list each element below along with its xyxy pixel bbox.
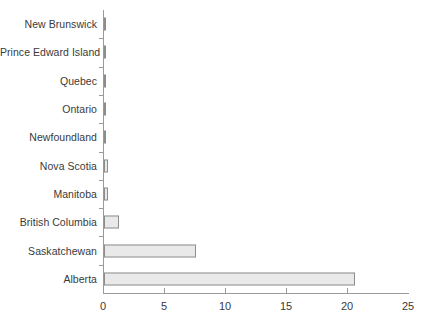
bar bbox=[104, 74, 106, 87]
x-axis-tick bbox=[225, 288, 226, 293]
x-axis-tick-label: 25 bbox=[402, 300, 414, 313]
chart-row: Alberta bbox=[0, 265, 434, 293]
x-axis-tick bbox=[347, 288, 348, 293]
chart-row: Ontario bbox=[0, 95, 434, 123]
bar-track bbox=[104, 159, 108, 172]
y-axis-tick bbox=[99, 38, 104, 39]
y-axis-tick bbox=[99, 95, 104, 96]
chart-row: British Columbia bbox=[0, 208, 434, 236]
y-axis-tick bbox=[99, 67, 104, 68]
chart-rows: New BrunswickPrince Edward IslandQuebecO… bbox=[0, 10, 434, 293]
chart-row: Nova Scotia bbox=[0, 152, 434, 180]
y-axis-tick bbox=[99, 236, 104, 237]
category-label: Newfoundland bbox=[0, 131, 97, 143]
chart-row: Quebec bbox=[0, 67, 434, 95]
bar-chart: New BrunswickPrince Edward IslandQuebecO… bbox=[0, 0, 434, 333]
bar bbox=[104, 187, 108, 200]
bar-track bbox=[104, 74, 106, 87]
bar-track bbox=[104, 131, 106, 144]
bar-track bbox=[104, 272, 355, 285]
category-label: British Columbia bbox=[0, 216, 97, 228]
category-label: Alberta bbox=[0, 273, 97, 285]
bar-track bbox=[104, 187, 108, 200]
bar-track bbox=[104, 216, 119, 229]
bar bbox=[104, 131, 106, 144]
category-label: Quebec bbox=[0, 75, 97, 87]
chart-row: Newfoundland bbox=[0, 123, 434, 151]
chart-row: Manitoba bbox=[0, 180, 434, 208]
x-axis-tick-label: 10 bbox=[219, 300, 231, 313]
bar-track bbox=[104, 103, 106, 116]
y-axis-tick bbox=[99, 208, 104, 209]
y-axis-tick bbox=[99, 152, 104, 153]
bar bbox=[104, 18, 106, 31]
bar bbox=[104, 216, 119, 229]
bar bbox=[104, 46, 106, 59]
bar bbox=[104, 244, 196, 257]
x-axis-tick-label: 0 bbox=[100, 300, 106, 313]
category-label: New Brunswick bbox=[0, 18, 97, 30]
bar bbox=[104, 103, 106, 116]
category-label: Nova Scotia bbox=[0, 160, 97, 172]
chart-row: New Brunswick bbox=[0, 10, 434, 38]
x-axis-tick bbox=[164, 288, 165, 293]
category-label: Saskatchewan bbox=[0, 245, 97, 257]
y-axis-tick bbox=[99, 265, 104, 266]
x-axis-tick-label: 15 bbox=[280, 300, 292, 313]
bar bbox=[104, 159, 108, 172]
category-label: Prince Edward Island bbox=[0, 46, 97, 58]
y-axis-tick bbox=[99, 180, 104, 181]
category-label: Manitoba bbox=[0, 188, 97, 200]
bar-track bbox=[104, 46, 106, 59]
chart-row: Prince Edward Island bbox=[0, 38, 434, 66]
x-axis-line bbox=[103, 293, 409, 294]
bar-track bbox=[104, 18, 106, 31]
y-axis-tick bbox=[99, 123, 104, 124]
x-axis-tick bbox=[286, 288, 287, 293]
bar bbox=[104, 272, 355, 285]
x-axis-tick-label: 5 bbox=[161, 300, 167, 313]
chart-row: Saskatchewan bbox=[0, 236, 434, 264]
bar-track bbox=[104, 244, 196, 257]
category-label: Ontario bbox=[0, 103, 97, 115]
x-axis-tick-label: 20 bbox=[341, 300, 353, 313]
